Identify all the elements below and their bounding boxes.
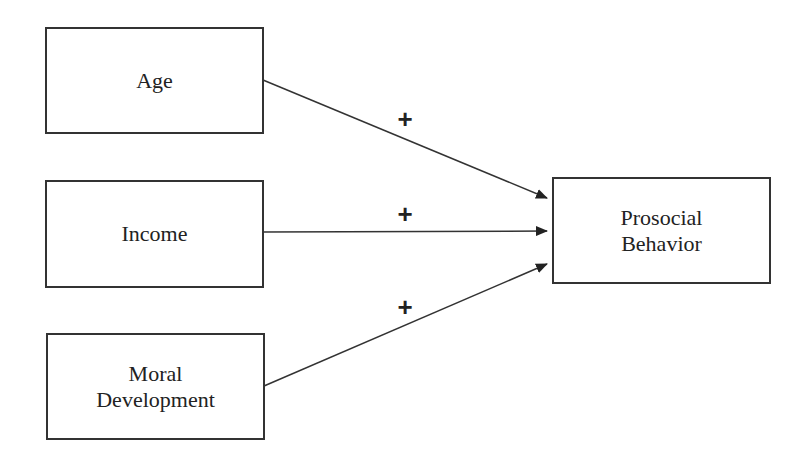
node-moral-development: Moral Development <box>46 333 265 440</box>
arrow-moral-to-prosocial <box>264 264 547 386</box>
arrow-income-to-prosocial <box>263 231 547 232</box>
node-prosocial-label-line1: Prosocial <box>621 205 703 231</box>
node-age-label: Age <box>136 68 173 94</box>
node-moral-label-line2: Development <box>96 387 215 413</box>
edge-sign-age: + <box>397 106 412 132</box>
edge-sign-income: + <box>397 201 412 227</box>
node-prosocial-label-line2: Behavior <box>621 231 702 257</box>
node-income-label: Income <box>122 221 188 247</box>
arrow-age-to-prosocial <box>263 80 547 198</box>
node-prosocial-behavior: Prosocial Behavior <box>552 177 771 284</box>
edge-sign-moral: + <box>397 294 412 320</box>
node-moral-label-line1: Moral <box>129 361 183 387</box>
node-income: Income <box>45 180 264 288</box>
node-age: Age <box>45 27 264 134</box>
